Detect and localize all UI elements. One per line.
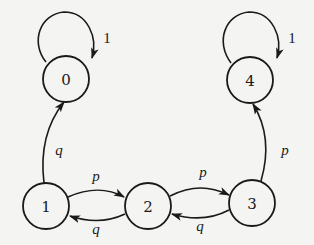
node-4: 4 — [227, 57, 273, 103]
node-2: 2 — [125, 183, 171, 229]
svg-text:4: 4 — [245, 72, 255, 90]
edge-label-4-4: 1 — [288, 30, 296, 46]
svg-text:3: 3 — [247, 195, 257, 213]
edge-label-3-2: q — [196, 218, 204, 234]
svg-text:2: 2 — [143, 198, 153, 216]
edge-label-0-0: 1 — [103, 30, 111, 46]
node-0: 0 — [43, 56, 89, 102]
svg-text:0: 0 — [61, 71, 71, 89]
svg-text:1: 1 — [41, 198, 51, 216]
edge-3-2 — [172, 210, 229, 218]
edge-label-2-1: q — [92, 221, 100, 237]
node-1: 1 — [23, 183, 69, 229]
edge-3-4 — [253, 104, 266, 181]
edge-label-3-4: p — [280, 142, 289, 158]
edge-label-1-2: p — [91, 168, 100, 184]
state-diagram: 1 1 q p q p q p 0 4 1 — [0, 0, 314, 245]
edge-4-4 — [223, 12, 278, 63]
edge-1-2 — [68, 190, 124, 197]
edge-0-0 — [38, 12, 93, 62]
node-3: 3 — [229, 180, 275, 226]
edge-2-1 — [70, 214, 125, 220]
edge-label-2-3: p — [198, 164, 207, 180]
edge-2-3 — [170, 188, 229, 196]
edge-label-1-0: q — [55, 142, 63, 158]
